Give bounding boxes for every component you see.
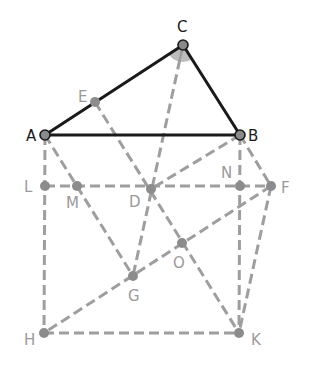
label-m: M bbox=[66, 194, 79, 212]
label-o: O bbox=[173, 254, 185, 272]
triangle-abc bbox=[45, 45, 240, 135]
point-f bbox=[266, 181, 276, 191]
point-m bbox=[72, 181, 82, 191]
label-l: L bbox=[24, 178, 33, 196]
label-e: E bbox=[78, 88, 87, 106]
point-d bbox=[146, 184, 156, 194]
point-a bbox=[40, 130, 50, 140]
label-c: C bbox=[177, 18, 187, 36]
label-k: K bbox=[251, 331, 262, 349]
side-cb bbox=[183, 45, 240, 135]
label-a: A bbox=[26, 127, 37, 145]
label-f: F bbox=[281, 179, 290, 197]
segment-ek bbox=[95, 102, 239, 333]
point-e bbox=[90, 97, 100, 107]
point-g bbox=[128, 271, 138, 281]
side-ac bbox=[45, 45, 183, 135]
label-b: B bbox=[248, 127, 258, 145]
point-c bbox=[178, 40, 188, 50]
segment-fk bbox=[239, 186, 271, 333]
point-o bbox=[177, 238, 187, 248]
segment-ag bbox=[45, 135, 133, 276]
point-k bbox=[234, 328, 244, 338]
label-g: G bbox=[128, 287, 140, 305]
point-l bbox=[40, 181, 50, 191]
geometry-diagram: ABCELMDNFOGHK bbox=[0, 0, 310, 370]
segment-bk bbox=[239, 135, 240, 333]
point-n bbox=[235, 181, 245, 191]
label-d: D bbox=[129, 193, 141, 211]
segment-cg bbox=[133, 45, 183, 276]
label-n: N bbox=[221, 164, 232, 182]
segment-ah bbox=[44, 135, 45, 333]
point-b bbox=[235, 130, 245, 140]
label-h: H bbox=[24, 331, 35, 349]
point-labels: ABCELMDNFOGHK bbox=[24, 18, 290, 349]
point-h bbox=[39, 328, 49, 338]
